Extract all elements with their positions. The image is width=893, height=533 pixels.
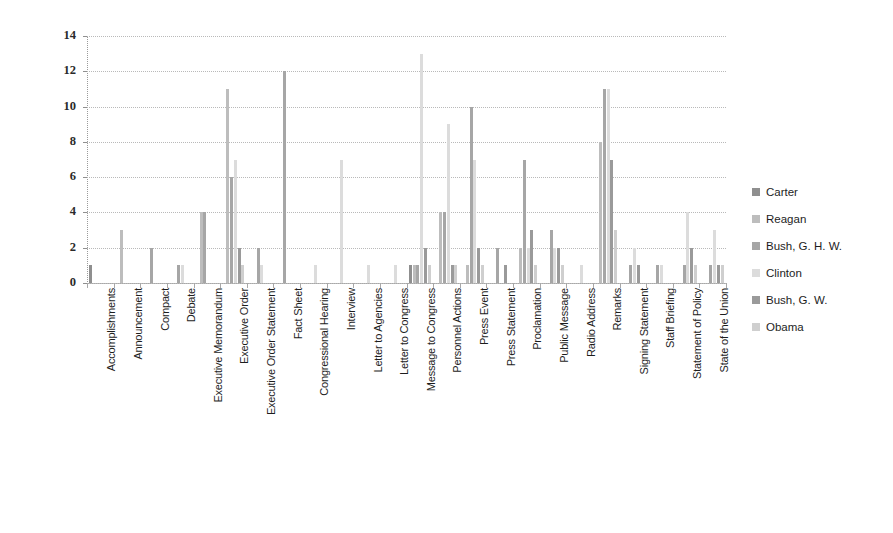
legend-item[interactable]: Bush, G. W. bbox=[752, 286, 887, 313]
legend-label: Clinton bbox=[766, 267, 802, 279]
x-axis-label: Letter to Agencies bbox=[372, 288, 384, 372]
bar bbox=[241, 265, 244, 283]
bar bbox=[660, 265, 663, 283]
bar bbox=[367, 265, 370, 283]
legend-swatch-icon bbox=[752, 296, 760, 304]
bar bbox=[200, 212, 203, 283]
x-axis-label: Press Event bbox=[478, 288, 490, 345]
y-tick-label: 10 bbox=[30, 99, 76, 114]
bar bbox=[260, 265, 263, 283]
bar bbox=[717, 265, 720, 283]
x-axis-label: State of the Union bbox=[718, 288, 730, 372]
bar bbox=[477, 248, 480, 283]
bar bbox=[470, 107, 473, 283]
bar bbox=[428, 265, 431, 283]
bar bbox=[694, 265, 697, 283]
x-axis-label: Debate bbox=[185, 288, 197, 322]
bar-cluster bbox=[87, 36, 114, 283]
bar bbox=[257, 248, 260, 283]
x-axis-label: Staff Briefing bbox=[664, 288, 676, 348]
y-tick-label: 0 bbox=[30, 275, 76, 290]
legend-label: Bush, G. W. bbox=[766, 294, 827, 306]
legend-label: Reagan bbox=[766, 213, 806, 225]
chart-legend: CarterReaganBush, G. H. W.ClintonBush, G… bbox=[752, 178, 887, 340]
bar-chart: 02468101214 AccomplishmentsAnnouncementC… bbox=[0, 0, 893, 533]
bar bbox=[686, 212, 689, 283]
bar-cluster bbox=[194, 36, 221, 283]
bar-cluster bbox=[407, 36, 434, 283]
legend-swatch-icon bbox=[752, 242, 760, 250]
x-axis-label: Remarks bbox=[611, 288, 623, 331]
bar bbox=[504, 265, 507, 283]
bar bbox=[454, 265, 457, 283]
bar-cluster bbox=[300, 36, 327, 283]
x-axis-label: Executive Memorandum bbox=[212, 288, 224, 403]
bar bbox=[629, 265, 632, 283]
bar-cluster bbox=[486, 36, 513, 283]
y-tick-label: 6 bbox=[30, 169, 76, 184]
bar bbox=[120, 230, 123, 283]
x-axis-label: Proclamation bbox=[531, 288, 543, 350]
bar bbox=[637, 265, 640, 283]
legend-label: Bush, G. H. W. bbox=[766, 240, 842, 252]
bar bbox=[656, 265, 659, 283]
x-axis-label: Message to Congress bbox=[425, 288, 437, 391]
legend-swatch-icon bbox=[752, 215, 760, 223]
bar bbox=[557, 248, 560, 283]
bar bbox=[607, 89, 610, 283]
y-tick-label: 8 bbox=[30, 134, 76, 149]
bar-cluster bbox=[620, 36, 647, 283]
bar bbox=[683, 265, 686, 283]
bar-cluster bbox=[353, 36, 380, 283]
y-tick-label: 2 bbox=[30, 240, 76, 255]
bar bbox=[721, 265, 724, 283]
bar bbox=[314, 265, 317, 283]
x-axis-labels: AccomplishmentsAnnouncementCompactDebate… bbox=[87, 288, 726, 478]
bar bbox=[439, 212, 442, 283]
bar-cluster bbox=[699, 36, 726, 283]
legend-swatch-icon bbox=[752, 269, 760, 277]
bar bbox=[690, 248, 693, 283]
x-axis-label: Personnel Actions bbox=[451, 288, 463, 373]
bar bbox=[424, 248, 427, 283]
legend-label: Obama bbox=[766, 321, 804, 333]
bar-cluster bbox=[140, 36, 167, 283]
x-axis-label: Accomplishments bbox=[105, 288, 117, 371]
bar-cluster bbox=[540, 36, 567, 283]
x-axis-label: Public Message bbox=[558, 288, 570, 363]
legend-item[interactable]: Clinton bbox=[752, 259, 887, 286]
bar bbox=[610, 160, 613, 284]
bar-cluster bbox=[460, 36, 487, 283]
bar bbox=[481, 265, 484, 283]
bar-cluster bbox=[327, 36, 354, 283]
bar bbox=[550, 230, 553, 283]
bar bbox=[409, 265, 412, 283]
bar-cluster bbox=[593, 36, 620, 283]
bar bbox=[181, 265, 184, 283]
bar bbox=[527, 248, 530, 283]
bar bbox=[203, 212, 206, 283]
y-tick-label: 14 bbox=[30, 28, 76, 43]
legend-swatch-icon bbox=[752, 188, 760, 196]
legend-item[interactable]: Carter bbox=[752, 178, 887, 205]
legend-item[interactable]: Bush, G. H. W. bbox=[752, 232, 887, 259]
x-axis-label: Announcement bbox=[132, 288, 144, 360]
bar bbox=[496, 248, 499, 283]
bar bbox=[447, 124, 450, 283]
legend-item[interactable]: Obama bbox=[752, 313, 887, 340]
bar bbox=[633, 248, 636, 283]
bar-cluster bbox=[513, 36, 540, 283]
bar-cluster bbox=[380, 36, 407, 283]
bar bbox=[443, 212, 446, 283]
bar bbox=[603, 89, 606, 283]
bar bbox=[473, 160, 476, 284]
bar bbox=[234, 160, 237, 284]
bar-cluster bbox=[167, 36, 194, 283]
legend-item[interactable]: Reagan bbox=[752, 205, 887, 232]
bar bbox=[283, 71, 286, 283]
bar bbox=[553, 248, 556, 283]
bar bbox=[519, 248, 522, 283]
bar-cluster bbox=[646, 36, 673, 283]
bar-cluster bbox=[566, 36, 593, 283]
bar bbox=[89, 265, 92, 283]
